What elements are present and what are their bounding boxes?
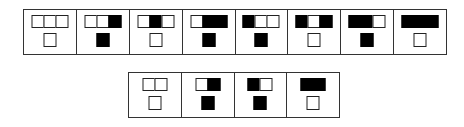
top-row-pattern-cell xyxy=(129,10,182,54)
empty-square xyxy=(55,15,68,28)
empty-square xyxy=(373,15,386,28)
bottom-row-pattern-cell xyxy=(129,73,181,117)
empty-square xyxy=(260,78,273,91)
filled-square xyxy=(207,78,220,91)
filled-square xyxy=(108,15,121,28)
filled-stem-square xyxy=(254,96,267,110)
filled-stem-square xyxy=(202,33,215,47)
pattern-cap xyxy=(84,15,121,28)
top-row-pattern-cell xyxy=(235,10,288,54)
top-row-pattern-cell xyxy=(182,10,235,54)
pattern-cap xyxy=(248,78,273,91)
pattern-cap xyxy=(31,15,68,28)
filled-stem-square xyxy=(361,33,374,47)
filled-stem-square xyxy=(255,33,268,47)
pattern-cap xyxy=(402,15,439,28)
top-row-pattern-cell xyxy=(24,10,76,54)
top-row-pattern-cell xyxy=(340,10,393,54)
top-row-pattern-cell xyxy=(287,10,340,54)
filled-square xyxy=(313,78,326,91)
empty-square xyxy=(161,15,174,28)
pattern-cap xyxy=(142,78,167,91)
pattern-cap xyxy=(301,78,326,91)
filled-square xyxy=(214,15,227,28)
bottom-row-pattern-cell xyxy=(181,73,234,117)
empty-square xyxy=(154,78,167,91)
empty-stem-square xyxy=(149,33,162,47)
pattern-cap xyxy=(195,78,220,91)
top-row-pattern-cell xyxy=(76,10,129,54)
pattern-cap xyxy=(137,15,174,28)
bottom-row-pattern-cell xyxy=(234,73,287,117)
empty-stem-square xyxy=(43,33,56,47)
pattern-cap xyxy=(296,15,333,28)
empty-square xyxy=(267,15,280,28)
top-row-pattern-cell xyxy=(393,10,446,54)
empty-stem-square xyxy=(307,96,320,110)
pattern-cap xyxy=(190,15,227,28)
filled-stem-square xyxy=(96,33,109,47)
empty-stem-square xyxy=(308,33,321,47)
filled-stem-square xyxy=(201,96,214,110)
bottom-row-pattern-cell xyxy=(286,73,339,117)
empty-stem-square xyxy=(414,33,427,47)
pattern-cap xyxy=(349,15,386,28)
filled-square xyxy=(426,15,439,28)
filled-square xyxy=(320,15,333,28)
empty-stem-square xyxy=(148,96,161,110)
bottom-row-patterns xyxy=(128,72,340,118)
top-row-patterns xyxy=(23,9,447,55)
pattern-cap xyxy=(243,15,280,28)
